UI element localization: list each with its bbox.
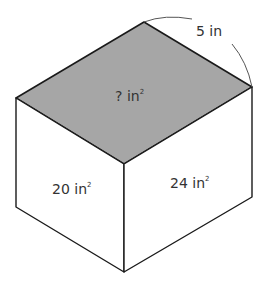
left-face-area-label: 20 in2 [52, 181, 92, 197]
prism-diagram: 5 in ? in2 20 in2 24 in2 [0, 0, 268, 294]
edge-dimension-label: 5 in [196, 23, 222, 39]
prism-svg: 5 in ? in2 20 in2 24 in2 [0, 0, 268, 294]
right-face-area-label: 24 in2 [170, 175, 210, 191]
dimension-arc-upper [144, 17, 192, 22]
